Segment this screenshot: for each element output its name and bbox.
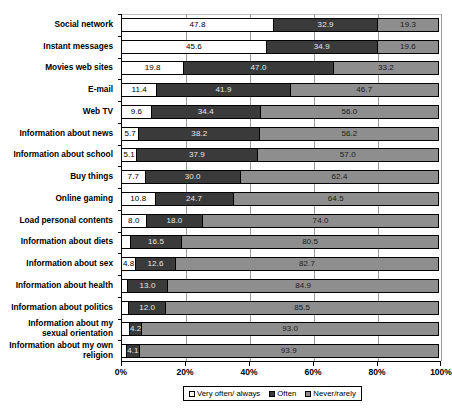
- legend-swatch-often: [269, 391, 275, 397]
- bar-segment: 37.9: [136, 148, 257, 162]
- bar-value-label: 16.5: [148, 238, 164, 246]
- x-axis-tick: [249, 362, 250, 366]
- bar-value-label: 34.4: [198, 108, 214, 116]
- bar-value-label: 24.7: [186, 195, 202, 203]
- table-row: 10.824.764.5: [121, 192, 441, 206]
- bar-value-label: 62.4: [331, 173, 347, 181]
- bar-segment: 47.8: [121, 18, 274, 32]
- bar-segment: 56.0: [260, 105, 439, 119]
- category-label: Information about school: [1, 150, 113, 160]
- bar-segment: 82.7: [175, 257, 440, 271]
- x-axis-label: 60%: [304, 367, 321, 377]
- bar-value-label: 80.5: [302, 238, 318, 246]
- bar-segment: 18.0: [146, 214, 204, 228]
- bar-value-label: 56.0: [341, 108, 357, 116]
- x-axis-tick: [377, 362, 378, 366]
- bar-value-label: 19.3: [400, 21, 416, 29]
- bar-value-label: 4.1: [127, 347, 138, 355]
- table-row: 45.634.919.6: [121, 40, 441, 54]
- bar-value-label: 19.6: [400, 43, 416, 51]
- bar-value-label: 19.8: [145, 64, 161, 72]
- x-axis-tick: [185, 362, 186, 366]
- bar-segment: 30.0: [145, 170, 241, 184]
- bar-value-label: 10.8: [130, 195, 146, 203]
- bar-segment: 84.9: [167, 279, 439, 293]
- bar-segment: 93.0: [141, 322, 439, 336]
- bar-value-label: 93.0: [282, 325, 298, 333]
- bar-segment: 34.4: [151, 105, 261, 119]
- bar-segment: 93.9: [139, 344, 439, 358]
- bar-segment: 11.4: [121, 83, 157, 97]
- bar-value-label: 8.0: [128, 217, 139, 225]
- table-row: 5.137.957.0: [121, 148, 441, 162]
- bar-value-label: 38.2: [191, 130, 207, 138]
- bar-value-label: 34.9: [314, 43, 330, 51]
- table-row: 4.193.9: [121, 344, 441, 358]
- bar-segment: 47.0: [183, 61, 333, 75]
- bar-segment: 57.0: [257, 148, 439, 162]
- bar-segment: 19.8: [121, 61, 184, 75]
- bar-segment: 56.2: [259, 127, 439, 141]
- x-axis-label: 20%: [176, 367, 193, 377]
- legend-label-never: Never/rarely: [313, 390, 355, 398]
- category-label: Social network: [1, 20, 113, 30]
- bar-value-label: 41.9: [216, 86, 232, 94]
- bar-value-label: 47.0: [251, 64, 267, 72]
- category-label: Buy things: [1, 172, 113, 182]
- bar-segment: 46.7: [290, 83, 439, 97]
- legend-label-very-often: Very often/ always: [197, 390, 260, 398]
- table-row: 5.738.256.2: [121, 127, 441, 141]
- bar-segment: 45.6: [121, 40, 267, 54]
- category-label: Online gaming: [1, 194, 113, 204]
- bar-value-label: 45.6: [186, 43, 202, 51]
- bar-segment: 64.5: [233, 192, 439, 206]
- category-label: E-mail: [1, 85, 113, 95]
- bar-value-label: 9.6: [131, 108, 142, 116]
- legend-item-very-often[interactable]: Very often/ always: [189, 390, 260, 398]
- category-label: Instant messages: [1, 42, 113, 52]
- table-row: 47.832.919.3: [121, 18, 441, 32]
- category-label: Information about my own religion: [1, 341, 113, 360]
- bar-segment: 4.8: [121, 257, 136, 271]
- bar-value-label: 4.8: [123, 260, 134, 268]
- bar-value-label: 4.2: [130, 325, 141, 333]
- bar-value-label: 12.6: [148, 260, 164, 268]
- bar-segment: 5.7: [121, 127, 139, 141]
- category-label: Information about news: [1, 129, 113, 139]
- x-axis-tick: [313, 362, 314, 366]
- table-row: 11.441.946.7: [121, 83, 441, 97]
- legend-item-never[interactable]: Never/rarely: [305, 390, 355, 398]
- x-axis-tick: [121, 362, 122, 366]
- bar-value-label: 37.9: [189, 151, 205, 159]
- bar-value-label: 74.0: [313, 217, 329, 225]
- bar-value-label: 13.0: [140, 282, 156, 290]
- table-row: 9.634.456.0: [121, 105, 441, 119]
- bar-value-label: 46.7: [356, 86, 372, 94]
- bar-segment: 62.4: [240, 170, 440, 184]
- bar-value-label: 30.0: [185, 173, 201, 181]
- table-row: 12.085.5: [121, 301, 441, 315]
- bar-segment: 38.2: [138, 127, 260, 141]
- category-label: Movies web sites: [1, 63, 113, 73]
- x-axis-label: 0%: [115, 367, 127, 377]
- table-row: 19.847.033.2: [121, 61, 441, 75]
- bar-segment: 33.2: [333, 61, 439, 75]
- bar-segment: 10.8: [121, 192, 156, 206]
- category-axis-labels: Social networkInstant messagesMovies web…: [0, 14, 118, 362]
- bar-segment: 24.7: [155, 192, 234, 206]
- table-row: 4.812.682.7: [121, 257, 441, 271]
- category-label: Information about sex: [1, 259, 113, 269]
- bar-segment: 19.6: [377, 40, 440, 54]
- bar-segment: 12.6: [135, 257, 175, 271]
- x-axis-label: 100%: [430, 367, 452, 377]
- legend-item-often[interactable]: Often: [269, 390, 296, 398]
- bar-segment: 41.9: [156, 83, 290, 97]
- bar-segment: 32.9: [273, 18, 378, 32]
- bar-value-label: 32.9: [318, 21, 334, 29]
- table-row: 4.293.0: [121, 322, 441, 336]
- chart-legend: Very often/ always Often Never/rarely: [183, 386, 362, 401]
- table-row: 7.730.062.4: [121, 170, 441, 184]
- gridline-100: [441, 14, 442, 361]
- bar-value-label: 18.0: [166, 217, 182, 225]
- bar-value-label: 56.2: [341, 130, 357, 138]
